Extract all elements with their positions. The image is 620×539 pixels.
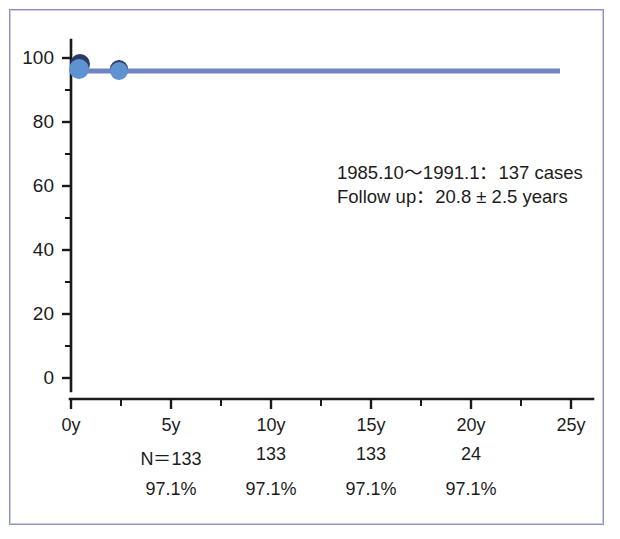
x-tick-label-25y: 25y: [541, 415, 601, 436]
survival-pct-10y: 97.1%: [228, 479, 314, 500]
x-tick-label-5y: 5y: [141, 415, 201, 436]
at-risk-n-15y: 133: [328, 444, 414, 465]
y-tick-label-100: 100: [8, 47, 54, 69]
at-risk-n-20y: 24: [428, 444, 514, 465]
y-tick-label-80: 80: [8, 111, 54, 133]
annotation-line-1: 1985.10〜1991.1：137 cases: [337, 158, 583, 184]
x-tick-label-0y: 0y: [41, 415, 101, 436]
survival-pct-20y: 97.1%: [428, 479, 514, 500]
x-tick-label-10y: 10y: [241, 415, 301, 436]
chart-figure: 100 80 60 40 20 0 0y 5y 10y 15y 20y 25y …: [0, 0, 620, 539]
survival-curve: [76, 68, 560, 71]
x-tick-label-15y: 15y: [341, 415, 401, 436]
y-tick-label-20: 20: [8, 303, 54, 325]
y-tick-label-40: 40: [8, 239, 54, 261]
marker-group-2: [110, 60, 128, 80]
survival-pct-5y: 97.1%: [128, 479, 214, 500]
survival-pct-15y: 97.1%: [328, 479, 414, 500]
x-tick-label-20y: 20y: [441, 415, 501, 436]
y-tick-label-60: 60: [8, 175, 54, 197]
y-tick-label-0: 0: [8, 367, 54, 389]
at-risk-n-10y: 133: [228, 444, 314, 465]
annotation-line-2: Follow up：20.8 ± 2.5 years: [337, 182, 568, 208]
at-risk-n-5y: N＝133: [128, 444, 214, 470]
